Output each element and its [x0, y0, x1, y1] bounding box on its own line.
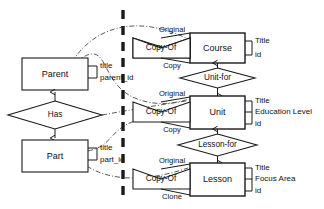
group-course: Course Title id Copy-Of Original Copy: [133, 25, 270, 70]
attr-parent-id: parent_id: [100, 73, 133, 82]
attr-lesson-title: Title: [255, 163, 270, 172]
role-lesson-clone: Clone: [162, 192, 182, 201]
attr-part-title: title: [100, 143, 113, 152]
relationship-has-label: Has: [48, 110, 63, 119]
entity-course-label: Course: [203, 43, 232, 53]
entity-lesson-label: Lesson: [203, 174, 232, 184]
role-lesson-original: Original: [159, 156, 185, 165]
entity-lesson-attributes: Title Focus Area id: [245, 163, 296, 195]
entity-unit-attributes: Title Education Level id: [245, 96, 312, 128]
relationship-has[interactable]: Has: [8, 101, 102, 129]
attr-parent-title: title: [100, 61, 113, 70]
relationship-lesson-for[interactable]: Lesson-for: [178, 134, 257, 156]
role-course-copy: Copy: [163, 61, 181, 70]
attr-unit-id: id: [255, 119, 261, 128]
relationship-copy-of-course-label: Copy-Of: [146, 43, 177, 52]
entity-unit-label: Unit: [209, 107, 226, 117]
relationship-copy-of-unit-label: Copy-Of: [146, 107, 177, 116]
er-diagram-canvas: Parent title parent_id Has Part title pa…: [0, 0, 324, 209]
relationship-unit-for[interactable]: Unit-for: [180, 68, 255, 88]
group-unit: Unit Title Education Level id Copy-Of Or…: [133, 89, 312, 134]
attr-course-id: id: [255, 50, 261, 59]
attr-course-title: Title: [255, 36, 270, 45]
role-unit-copy: Copy: [163, 125, 181, 134]
relationship-lesson-for-label: Lesson-for: [198, 140, 237, 149]
relationship-copy-of-course[interactable]: Copy-Of: [133, 38, 190, 58]
attr-part-id: part_id: [100, 155, 124, 164]
entity-course-attributes: Title id: [245, 36, 270, 59]
relationship-copy-of-lesson[interactable]: Copy-Of: [133, 169, 190, 189]
entity-part-attributes: title part_id: [88, 143, 124, 164]
role-course-original: Original: [159, 25, 185, 34]
attr-lesson-focus-area: Focus Area: [255, 174, 296, 183]
entity-course[interactable]: Course: [190, 33, 245, 63]
group-lesson: Lesson Title Focus Area id Copy-Of Origi…: [133, 156, 296, 201]
role-unit-original: Original: [159, 89, 185, 98]
attr-unit-education-level: Education Level: [255, 107, 312, 116]
attr-lesson-id: id: [255, 186, 261, 195]
entity-lesson[interactable]: Lesson: [190, 163, 245, 196]
relationship-unit-for-label: Unit-for: [204, 73, 231, 82]
entity-parent-attributes: title parent_id: [88, 61, 133, 82]
entity-parent-label: Parent: [42, 69, 69, 79]
left-panel: Parent title parent_id Has Part title pa…: [8, 58, 133, 172]
entity-unit[interactable]: Unit: [190, 96, 245, 129]
entity-part[interactable]: Part: [22, 140, 88, 172]
relationship-copy-of-lesson-label: Copy-Of: [146, 174, 177, 183]
entity-part-label: Part: [47, 151, 64, 161]
entity-parent[interactable]: Parent: [22, 58, 88, 90]
attr-unit-title: Title: [255, 96, 270, 105]
